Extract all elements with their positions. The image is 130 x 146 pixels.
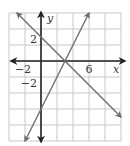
coordinate-plane: −262−2xy <box>0 0 130 146</box>
x-tick-label: 6 <box>86 63 93 76</box>
axis-labels: −262−2xy <box>15 12 120 90</box>
x-tick-label: −2 <box>15 63 31 76</box>
y-tick-label: 2 <box>30 33 37 46</box>
y-tick-label: −2 <box>21 77 37 90</box>
y-axis-label: y <box>46 12 54 25</box>
x-axis-label: x <box>113 63 120 76</box>
